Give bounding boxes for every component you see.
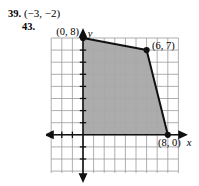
vertex-point-0-8	[80, 35, 86, 41]
exercise-43-number: 43.	[22, 21, 35, 32]
point-label-6-7: (6, 7)	[152, 40, 175, 52]
answer-key-figure: 39. (−3, −2) 43.	[0, 0, 199, 186]
point-label-8-0: (8, 0)	[158, 137, 181, 149]
vertex-point-6-7	[144, 47, 150, 53]
exercise-39-number: 39.	[8, 8, 21, 19]
y-axis-arrow-down	[80, 174, 86, 181]
x-axis-label: x	[186, 137, 192, 148]
exercise-39-answer: (−3, −2)	[24, 7, 60, 19]
exercise-43: 43.	[22, 20, 35, 33]
y-axis-label: y	[87, 28, 93, 39]
exercise-39: 39. (−3, −2)	[8, 7, 60, 20]
coordinate-plane-graph: (0, 8) (6, 7) (8, 0) x y	[46, 28, 196, 183]
x-axis-arrow-left	[46, 132, 53, 138]
point-label-0-8: (0, 8)	[56, 28, 79, 38]
